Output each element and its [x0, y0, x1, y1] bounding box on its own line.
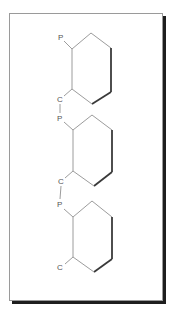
ring-3-bond-top-left [73, 201, 92, 217]
ring-1-p-bond [64, 41, 72, 49]
ring-2-c-label: C [58, 177, 64, 186]
ring-1-c-label: C [57, 95, 63, 104]
ring-3-p-label: P [57, 200, 62, 209]
ring-3-c-bond [65, 257, 73, 264]
ring-3-bond-bottom-right [94, 259, 112, 272]
ring-3-c-label: C [57, 263, 63, 272]
ring-2-bond-top-right [92, 115, 112, 130]
ring-2-p-label: P [57, 114, 62, 123]
ring-3-bond-bottom-left [73, 257, 94, 272]
ring-1-bond-top-left [72, 33, 91, 49]
link-2-c-p [60, 186, 61, 199]
ring-3: P C [57, 200, 112, 272]
ring-1-p-label: P [58, 33, 63, 42]
ring-2-bond-top-left [73, 115, 92, 130]
ring-2-bond-bottom-left [73, 171, 94, 186]
ring-1: P C [57, 33, 111, 104]
ring-3-bond-top-right [92, 201, 112, 217]
ring-3-p-bond [64, 209, 73, 217]
ring-2-bond-bottom-right [94, 172, 112, 186]
ring-2-p-bond [64, 122, 73, 130]
ring-1-bond-bottom-left [72, 89, 92, 104]
ring-1-bond-top-right [91, 33, 111, 48]
ring-2-c-bond [65, 171, 73, 178]
structure-diagram: P C P C P C [0, 0, 173, 315]
ring-2: P C [57, 114, 112, 186]
ring-1-c-bond [64, 89, 72, 96]
ring-1-bond-bottom-right [92, 92, 111, 104]
